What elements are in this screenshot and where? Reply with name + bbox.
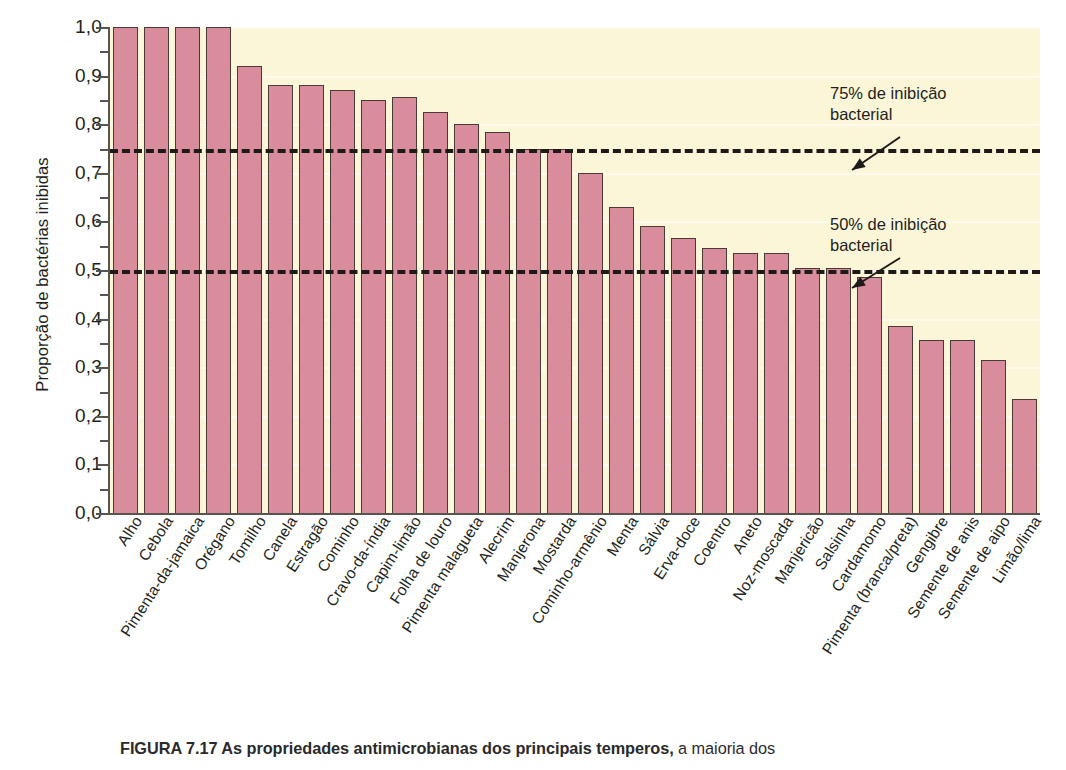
- x-tick-label: Menta: [603, 513, 642, 559]
- figure-caption: FIGURA 7.17 As propriedades antimicrobia…: [120, 739, 1050, 758]
- x-axis-tick-labels: AlhoCebolaPimenta-da-jamaicaOréganoTomil…: [0, 513, 1066, 728]
- caption-bold-part: FIGURA 7.17 As propriedades antimicrobia…: [120, 739, 674, 757]
- caption-rest-part: a maioria dos: [674, 739, 776, 757]
- figure-container: Proporção de bactérias inibidas 0,00,10,…: [0, 0, 1066, 770]
